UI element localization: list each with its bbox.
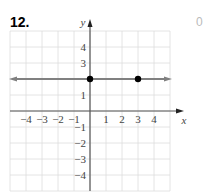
x-axis-label: x <box>181 114 187 126</box>
x-tick-label: 1 <box>103 113 109 125</box>
y-tick-label: −4 <box>74 169 86 181</box>
y-axis-arrow-icon <box>88 19 93 27</box>
y-tick-label: −3 <box>74 153 86 165</box>
data-point <box>135 76 141 82</box>
y-axis-label: y <box>80 16 86 28</box>
y-tick-label: 1 <box>81 89 87 101</box>
x-tick-label: 2 <box>119 113 125 125</box>
y-tick-label: 4 <box>81 41 87 53</box>
x-axis-arrow-icon <box>176 109 184 114</box>
x-tick-label: −4 <box>20 113 32 125</box>
x-tick-label: 3 <box>135 113 141 125</box>
coordinate-graph: xy−4−3−2−11234431−1−2−3−4 <box>0 0 213 195</box>
data-point <box>87 76 93 82</box>
x-tick-label: 4 <box>151 113 157 125</box>
line-right-arrow-icon <box>164 77 172 82</box>
x-tick-label: −2 <box>52 113 64 125</box>
y-tick-label: −2 <box>74 137 86 149</box>
y-tick-label: 3 <box>81 57 87 69</box>
y-tick-label: −1 <box>74 121 86 133</box>
x-tick-label: −3 <box>36 113 48 125</box>
